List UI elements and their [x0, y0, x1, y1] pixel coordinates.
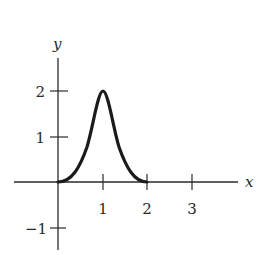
x-tick-label-3: 3 — [187, 200, 197, 218]
y-tick-label-neg1: −1 — [25, 220, 47, 238]
y-tick-label-2: 2 — [35, 83, 45, 101]
x-axis-label: x — [245, 173, 254, 191]
x-tick-label-2: 2 — [142, 200, 152, 218]
y-ticks — [50, 91, 68, 228]
bump-curve — [58, 91, 147, 182]
x-tick-label-1: 1 — [98, 200, 108, 218]
y-axis-label: y — [52, 35, 62, 53]
y-tick-label-1: 1 — [35, 129, 45, 147]
chart: x y 1 2 3 2 1 −1 — [0, 0, 267, 255]
